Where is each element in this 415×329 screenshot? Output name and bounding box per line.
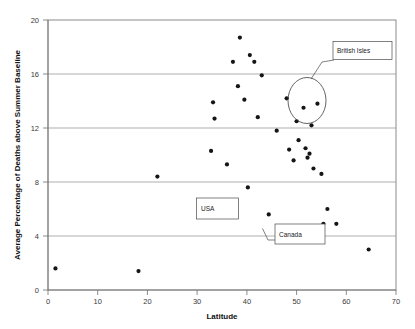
data-point [236,84,240,88]
x-tick-label-0: 0 [46,297,50,306]
data-point [53,266,57,270]
data-point [209,149,213,153]
data-point [287,148,291,152]
british-isles-ellipse [288,78,326,124]
data-point [275,129,279,133]
data-point [303,146,307,150]
data-point [315,102,319,106]
data-point [225,162,229,166]
data-point [212,116,216,120]
data-point [307,152,311,156]
data-point [248,53,252,57]
usa-callout-label: USA [201,205,215,212]
y-tick-label-12: 12 [31,124,39,133]
x-tick-label-50: 50 [292,297,300,306]
data-point [231,60,235,64]
data-point [296,138,300,142]
x-tick-label-20: 20 [143,297,151,306]
data-point [305,156,309,160]
data-point [367,247,371,251]
usa-annotation: USA [197,198,239,219]
data-point [291,158,295,162]
data-point [238,35,242,39]
data-point [319,172,323,176]
data-point [334,222,338,226]
x-tick-label-70: 70 [392,297,400,306]
y-axis: 0 4 8 12 16 20 [31,16,48,295]
data-point [309,123,313,127]
data-point [211,100,215,104]
x-tick-label-30: 30 [193,297,201,306]
y-axis-title: Average Percentage of Deaths above Summe… [13,49,22,260]
british-isles-annotation: British Isles [288,42,392,124]
y-tick-label-16: 16 [31,70,39,79]
x-tick-label-60: 60 [342,297,350,306]
data-point [155,175,159,179]
x-axis: 0 10 20 30 40 50 60 70 [46,290,400,306]
x-tick-label-10: 10 [94,297,102,306]
y-tick-label-4: 4 [35,232,39,241]
y-tick-label-8: 8 [35,178,39,187]
canada-annotation: Canada [263,224,326,244]
canada-callout-label: Canada [279,231,302,238]
y-tick-label-0: 0 [35,286,39,295]
y-tick-label-20: 20 [31,16,39,25]
scatter-chart-figure: 0 4 8 12 16 20 0 10 20 30 40 50 60 70 [0,0,415,329]
data-point [325,207,329,211]
data-point [246,185,250,189]
plot-canvas: 0 4 8 12 16 20 0 10 20 30 40 50 60 70 [0,0,415,329]
data-point [136,269,140,273]
data-point [242,98,246,102]
x-tick-label-40: 40 [243,297,251,306]
data-point [256,115,260,119]
x-axis-title: Latitude [206,312,238,321]
data-point [267,212,271,216]
british-isles-leader-line [311,60,334,79]
data-point [260,73,264,77]
data-point [252,60,256,64]
data-point [311,166,315,170]
canada-leader-line [263,229,277,241]
data-point [301,106,305,110]
british-isles-callout-label: British Isles [337,47,371,54]
plot-frame [48,20,396,290]
